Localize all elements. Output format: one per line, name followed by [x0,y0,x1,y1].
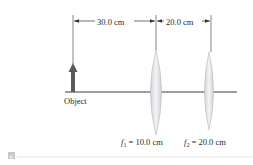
lens2-focal-label: f2 = 20.0 cm [184,137,226,148]
two-lens-diagram: 30.0 cm 20.0 cm Object f1 = 10.0 cm f2 =… [0,0,253,165]
lens1-focal-label: f1 = 10.0 cm [121,137,163,148]
panel-label: a [9,152,13,159]
dimension-label-20cm: 20.0 cm [166,17,194,27]
lens1-value: = 10.0 cm [126,137,163,147]
lens2-value: = 20.0 cm [189,137,226,147]
object-arrow-icon [69,63,78,92]
lens-1 [151,50,162,135]
dimension-label-30cm: 30.0 cm [97,17,125,27]
object-label: Object [64,96,87,106]
lens-2 [205,52,214,130]
